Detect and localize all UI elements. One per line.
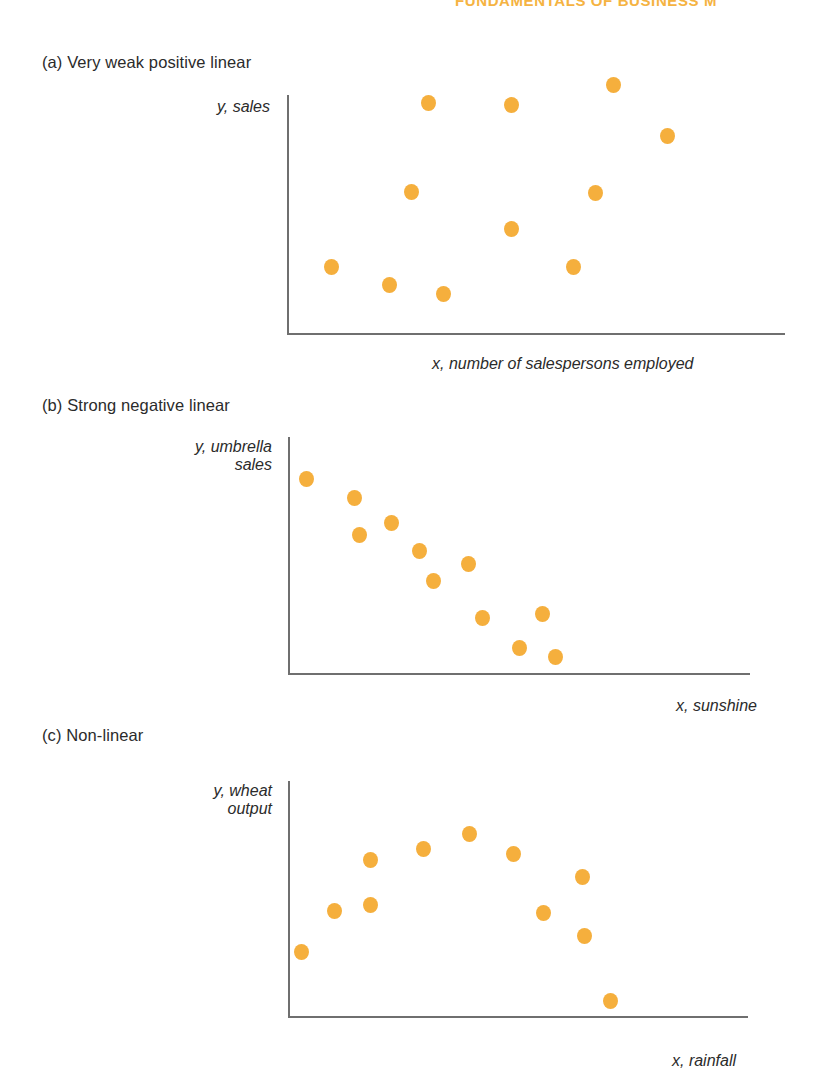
- data-point: [475, 610, 490, 626]
- data-point: [352, 527, 367, 543]
- panel-a-title: (a) Very weak positive linear: [42, 53, 251, 72]
- panel-a-plot-area: [287, 95, 785, 335]
- data-point: [536, 905, 551, 921]
- data-point: [426, 573, 441, 589]
- data-point: [660, 128, 675, 144]
- panel-b-y-axis: [288, 437, 290, 675]
- panel-b-title: (b) Strong negative linear: [42, 396, 230, 415]
- data-point: [535, 606, 550, 622]
- data-point: [416, 841, 431, 857]
- data-point: [575, 869, 590, 885]
- panel-a-y-axis: [287, 95, 289, 335]
- data-point: [566, 259, 581, 275]
- panel-a-x-axis: [287, 333, 785, 335]
- panel-b-plot-area: [288, 437, 750, 675]
- panel-c-plot-area: [288, 781, 748, 1018]
- panel-c-x-axis: [288, 1016, 748, 1018]
- data-point: [603, 993, 618, 1009]
- running-header: FUNDAMENTALS OF BUSINESS M: [455, 0, 831, 6]
- data-point: [504, 97, 519, 113]
- data-point: [327, 903, 342, 919]
- data-point: [462, 826, 477, 842]
- data-point: [548, 649, 563, 665]
- data-point: [324, 259, 339, 275]
- figure-page: FUNDAMENTALS OF BUSINESS M (a) Very weak…: [0, 0, 831, 1083]
- data-point: [382, 277, 397, 293]
- panel-c-title: (c) Non-linear: [42, 726, 143, 745]
- panel-a-x-axis-label: x, number of salespersons employed: [432, 355, 812, 373]
- data-point: [506, 846, 521, 862]
- data-point: [504, 221, 519, 237]
- data-point: [384, 515, 399, 531]
- panel-b-x-axis: [288, 673, 750, 675]
- data-point: [404, 184, 419, 200]
- data-point: [436, 286, 451, 302]
- panel-c-y-axis: [288, 781, 290, 1018]
- data-point: [363, 852, 378, 868]
- data-point: [588, 185, 603, 201]
- data-point: [461, 556, 476, 572]
- panel-a-y-axis-label: y, sales: [120, 98, 270, 116]
- data-point: [363, 897, 378, 913]
- data-point: [606, 77, 621, 93]
- panel-b-y-axis-label: y, umbrella sales: [120, 438, 272, 475]
- panel-b-x-axis-label: x, sunshine: [676, 697, 831, 715]
- data-point: [412, 543, 427, 559]
- data-point: [577, 928, 592, 944]
- data-point: [294, 944, 309, 960]
- data-point: [421, 95, 436, 111]
- data-point: [347, 490, 362, 506]
- data-point: [512, 640, 527, 656]
- panel-c-y-axis-label: y, wheat output: [120, 782, 272, 819]
- data-point: [299, 471, 314, 487]
- panel-c-x-axis-label: x, rainfall: [672, 1052, 831, 1070]
